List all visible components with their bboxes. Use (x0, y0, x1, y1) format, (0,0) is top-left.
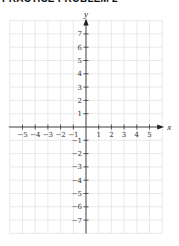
tick-labels: −5−4−3−2−1123457654321−1−2−3−4−5−6−7 (17, 30, 151, 224)
y-axis-arrow-icon (83, 19, 88, 26)
y-tick-label: −6 (72, 203, 83, 211)
coordinate-grid: xy −5−4−3−2−1123457654321−1−2−3−4−5−6−7 (0, 0, 179, 246)
y-tick-label: 6 (78, 44, 83, 52)
x-tick-label: 2 (109, 131, 113, 139)
y-tick-label: 2 (78, 97, 82, 105)
x-tick-label: −3 (43, 131, 53, 139)
y-tick-label: 7 (78, 30, 82, 38)
x-axis-label: x (166, 122, 171, 132)
x-tick-label: 3 (122, 131, 126, 139)
y-tick-label: −5 (72, 190, 82, 198)
y-tick-label: 5 (78, 57, 82, 65)
y-tick-label: 3 (78, 84, 82, 92)
y-tick-label: −1 (72, 137, 82, 145)
y-tick-label: −7 (72, 217, 82, 225)
y-tick-label: 4 (78, 70, 83, 78)
y-tick-label: −4 (72, 177, 83, 185)
x-tick-label: 4 (135, 131, 140, 139)
x-axis-arrow-icon (157, 124, 164, 129)
y-tick-label: −3 (72, 163, 82, 171)
x-tick-label: 1 (96, 131, 100, 139)
y-tick-label: 1 (78, 110, 82, 118)
x-tick-label: −5 (17, 131, 27, 139)
y-axis-label: y (83, 9, 88, 19)
axes: xy (9, 9, 171, 234)
y-tick-label: −2 (72, 150, 82, 158)
x-tick-label: −2 (55, 131, 65, 139)
x-tick-label: −4 (30, 131, 41, 139)
x-tick-label: 5 (147, 131, 151, 139)
